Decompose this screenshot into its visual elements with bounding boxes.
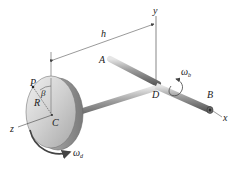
x-axis-line xyxy=(213,111,222,117)
point-C-marker xyxy=(51,114,53,116)
point-B-label: B xyxy=(207,89,213,100)
omega-d-label: ωd xyxy=(73,147,84,159)
dimension-h-label: h xyxy=(101,28,106,39)
y-axis-label: y xyxy=(152,5,158,16)
arm-AD xyxy=(110,59,158,84)
point-P-label: P xyxy=(29,77,36,88)
omega-b-label: ωb xyxy=(181,66,191,78)
disk-shaft-diagram: y h A B x D ωb z P R β C ωd xyxy=(0,0,242,169)
point-C-label: C xyxy=(52,117,59,128)
arm-DB xyxy=(156,86,210,110)
point-A-label: A xyxy=(98,54,106,65)
angle-beta-label: β xyxy=(40,88,46,98)
shaft-end-B-hole xyxy=(209,108,212,111)
z-axis-label: z xyxy=(9,123,14,134)
x-axis-label: x xyxy=(222,112,228,123)
radius-R-label: R xyxy=(33,97,40,108)
point-D-label: D xyxy=(151,89,160,100)
